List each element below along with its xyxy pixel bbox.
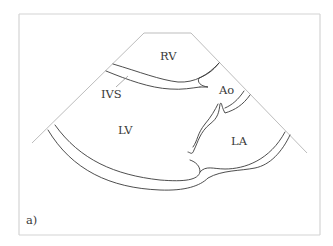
label-ao: Ao (218, 83, 234, 97)
interventricular-septum (106, 63, 219, 89)
label-lv: LV (118, 123, 133, 137)
echo-diagram: RV IVS Ao LV LA a) (0, 0, 333, 246)
label-rv: RV (160, 49, 177, 63)
figure-frame (19, 14, 320, 235)
label-la: LA (231, 134, 248, 148)
panel-label: a) (26, 213, 37, 227)
label-ivs: IVS (101, 87, 122, 101)
septum-aortic-tip (198, 63, 219, 87)
lv-wall-outer-border (48, 130, 290, 190)
posterior-lv-wall (48, 125, 290, 190)
